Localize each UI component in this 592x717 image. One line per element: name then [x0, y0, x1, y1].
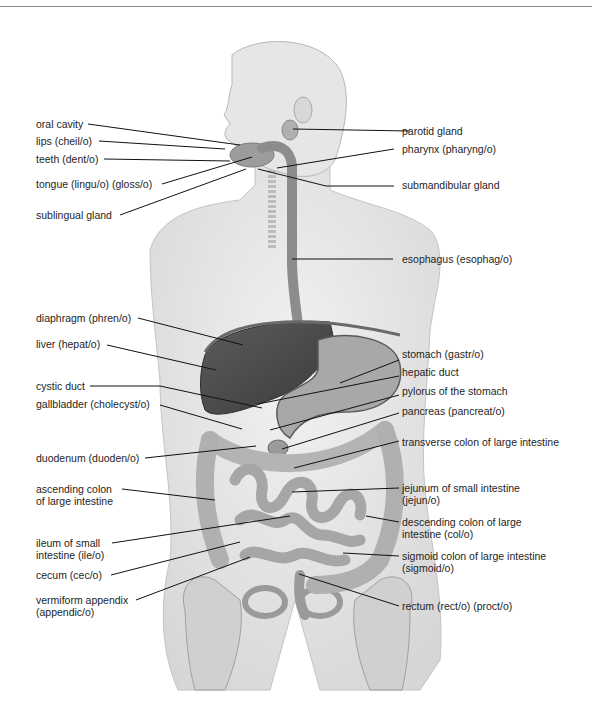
label-line: jejunum of small intestine [402, 482, 520, 494]
label-appendix: vermiform appendix (appendic/o) [36, 594, 128, 618]
label-lips: lips (cheil/o) [36, 135, 92, 147]
label-esophagus: esophagus (esophag/o) [402, 253, 512, 265]
label-line: vermiform appendix [36, 594, 128, 606]
label-ascending-colon: ascending colon of large intestine [36, 483, 113, 507]
label-gallbladder: gallbladder (cholecyst/o) [36, 398, 150, 410]
label-submandibular-gland: submandibular gland [402, 179, 499, 191]
label-duodenum: duodenum (duoden/o) [36, 452, 139, 464]
label-diaphragm: diaphragm (phren/o) [36, 312, 131, 324]
label-descending-colon: descending colon of large intestine (col… [402, 516, 522, 540]
label-ileum: ileum of small intestine (ile/o) [36, 537, 104, 561]
rectum-illustration [299, 575, 305, 615]
label-hepatic-duct: hepatic duct [402, 366, 459, 378]
label-cecum: cecum (cec/o) [36, 569, 102, 581]
label-tongue: tongue (lingu/o) (gloss/o) [36, 178, 152, 190]
label-rectum: rectum (rect/o) (proct/o) [402, 600, 512, 612]
label-parotid-gland: parotid gland [402, 125, 463, 137]
label-oral-cavity: oral cavity [36, 118, 83, 130]
label-pharynx: pharynx (pharyng/o) [402, 143, 496, 155]
label-line: (jejun/o) [402, 494, 520, 506]
label-pancreas: pancreas (pancreat/o) [402, 405, 505, 417]
label-line: (appendic/o) [36, 606, 128, 618]
label-line: intestine (col/o) [402, 528, 522, 540]
label-cystic-duct: cystic duct [36, 380, 85, 392]
label-transverse-colon: transverse colon of large intestine [402, 436, 559, 448]
label-sigmoid-colon: sigmoid colon of large intestine (sigmoi… [402, 550, 546, 574]
label-teeth: teeth (dent/o) [36, 153, 98, 165]
label-line: (sigmoid/o) [402, 562, 546, 574]
label-line: of large intestine [36, 495, 113, 507]
label-line: descending colon of large [402, 516, 522, 528]
label-pylorus: pylorus of the stomach [402, 385, 508, 397]
label-line: intestine (ile/o) [36, 549, 104, 561]
label-jejunum: jejunum of small intestine (jejun/o) [402, 482, 520, 506]
label-liver: liver (hepat/o) [36, 338, 100, 350]
label-sublingual-gland: sublingual gland [36, 209, 112, 221]
label-line: ileum of small [36, 537, 104, 549]
label-line: ascending colon [36, 483, 113, 495]
label-line: sigmoid colon of large intestine [402, 550, 546, 562]
label-stomach: stomach (gastr/o) [402, 348, 484, 360]
